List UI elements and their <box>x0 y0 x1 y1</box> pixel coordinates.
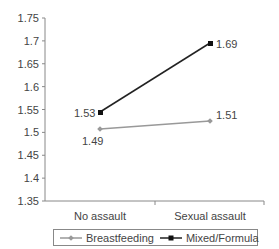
y-ticks: 1.751.71.651.61.551.51.451.41.35 <box>18 12 45 207</box>
chart-plot: 1.751.71.651.61.551.51.451.41.35 No assa… <box>0 0 279 249</box>
legend-item-mixed-formula: Mixed/Formula <box>160 232 259 244</box>
breastfeeding-marker <box>97 126 103 132</box>
y-tick-label: 1.5 <box>24 126 39 138</box>
value-label: 1.51 <box>216 109 237 121</box>
x-category-label: Sexual assault <box>174 210 246 222</box>
y-tick-label: 1.35 <box>18 195 39 207</box>
legend-label: Breastfeeding <box>86 232 154 244</box>
breastfeeding-marker <box>207 118 213 124</box>
legend-item-breastfeeding: Breastfeeding <box>60 232 154 244</box>
y-tick-label: 1.45 <box>18 149 39 161</box>
y-tick-label: 1.55 <box>18 104 39 116</box>
legend-label: Mixed/Formula <box>186 232 259 244</box>
breastfeeding-line <box>100 121 210 129</box>
y-tick-label: 1.6 <box>24 81 39 93</box>
value-label: 1.69 <box>216 38 237 50</box>
y-tick-label: 1.4 <box>24 172 39 184</box>
diamond-marker-icon <box>60 234 82 242</box>
mixed-formula-line <box>100 43 210 112</box>
value-label: 1.49 <box>82 135 103 147</box>
mixed-formula-marker <box>98 110 103 115</box>
square-marker-icon <box>160 234 182 242</box>
x-category-label: No assault <box>74 210 126 222</box>
mixed-formula-marker <box>208 41 213 46</box>
y-tick-label: 1.75 <box>18 12 39 24</box>
y-tick-label: 1.65 <box>18 58 39 70</box>
legend: Breastfeeding Mixed/Formula <box>53 229 258 246</box>
value-label: 1.53 <box>74 107 95 119</box>
y-tick-label: 1.7 <box>24 35 39 47</box>
